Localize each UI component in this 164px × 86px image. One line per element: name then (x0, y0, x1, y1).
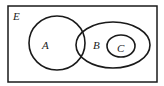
set-b-label: B (93, 39, 100, 51)
set-b-ellipse (76, 22, 150, 68)
universal-set-label: E (12, 10, 20, 22)
set-c-label: C (117, 42, 125, 54)
set-a-label: A (41, 39, 49, 51)
venn-diagram: E A B C (0, 0, 164, 86)
